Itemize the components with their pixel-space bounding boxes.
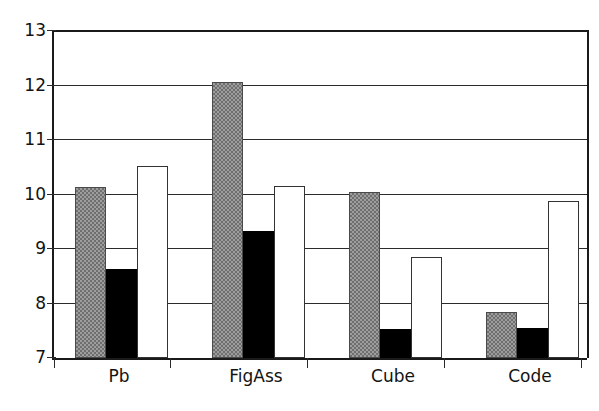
- y-tick-label-9: 9: [4, 240, 46, 257]
- plot-area: [52, 30, 587, 360]
- gridline-13: [54, 30, 587, 32]
- plot-right-border: [587, 30, 589, 358]
- y-tick-label-7: 7: [4, 349, 46, 366]
- gridline-11: [54, 139, 587, 140]
- bar-cube-series2: [380, 329, 411, 358]
- y-tick-mark-8: [47, 303, 56, 304]
- x-tick-mark-1: [170, 358, 171, 368]
- gridline-12: [54, 85, 587, 86]
- bar-figass-series3: [274, 186, 305, 358]
- x-category-label-pb: Pb: [108, 368, 129, 385]
- bar-cube-series3: [411, 257, 442, 358]
- bar-pb-series2: [106, 269, 137, 358]
- bar-figass-series1: [212, 82, 243, 358]
- x-tick-mark-3: [444, 358, 445, 368]
- y-axis-tick-labels: 13 12 11 10 9 8 7: [0, 0, 46, 411]
- y-tick-label-11: 11: [4, 131, 46, 148]
- y-tick-label-10: 10: [4, 186, 46, 203]
- bar-pb-series1: [75, 187, 106, 358]
- y-tick-label-13: 13: [4, 22, 46, 39]
- bar-code-series3: [548, 201, 579, 358]
- y-tick-mark-10: [47, 194, 56, 195]
- bar-cube-series1: [349, 192, 380, 358]
- y-tick-label-8: 8: [4, 295, 46, 312]
- y-tick-mark-9: [47, 248, 56, 249]
- bar-figass-series2: [243, 231, 274, 358]
- bar-code-series1: [486, 312, 517, 358]
- bar-chart: 13 12 11 10 9 8 7: [0, 0, 599, 411]
- x-tick-mark-4: [581, 358, 582, 368]
- gridline-9: [54, 248, 587, 249]
- bar-code-series2: [517, 328, 548, 358]
- bar-pb-series3: [137, 166, 168, 358]
- y-tick-mark-12: [47, 85, 56, 86]
- x-tick-mark-0: [54, 358, 55, 368]
- x-tick-mark-2: [307, 358, 308, 368]
- x-category-label-code: Code: [508, 368, 552, 385]
- x-category-label-figass: FigAss: [229, 368, 282, 385]
- y-tick-label-12: 12: [4, 77, 46, 94]
- gridline-10: [54, 194, 587, 195]
- y-tick-mark-13: [47, 30, 56, 31]
- x-category-label-cube: Cube: [371, 368, 415, 385]
- y-tick-mark-11: [47, 139, 56, 140]
